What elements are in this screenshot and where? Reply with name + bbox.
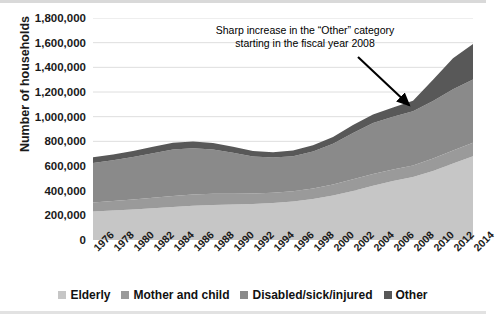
- x-tick-label: 1996: [291, 228, 316, 253]
- legend-label: Mother and child: [133, 288, 229, 302]
- x-tick-label: 2006: [391, 228, 416, 253]
- x-tick-label: 1994: [271, 228, 296, 253]
- legend-label: Elderly: [70, 288, 110, 302]
- legend-item[interactable]: Elderly: [58, 288, 110, 302]
- x-tick-label: 2014: [471, 228, 496, 253]
- x-tick-label: 1984: [171, 228, 196, 253]
- legend-swatch-icon: [240, 291, 248, 299]
- x-tick-label: 1990: [231, 228, 256, 253]
- annotation-line-1: Sharp increase in the “Other” category: [196, 24, 414, 37]
- x-tick-label: 1982: [151, 228, 176, 253]
- x-tick-label: 2010: [431, 228, 456, 253]
- x-tick-label: 1976: [91, 228, 116, 253]
- x-tick-label: 1978: [111, 228, 136, 253]
- x-tick-label: 2008: [411, 228, 436, 253]
- legend-label: Other: [396, 288, 428, 302]
- x-tick-label: 1980: [131, 228, 156, 253]
- legend-item[interactable]: Mother and child: [121, 288, 229, 302]
- chart-legend: ElderlyMother and childDisabled/sick/inj…: [0, 288, 486, 302]
- x-tick-label: 1992: [251, 228, 276, 253]
- legend-item[interactable]: Other: [384, 288, 428, 302]
- annotation-callout: Sharp increase in the “Other” category s…: [196, 24, 414, 50]
- legend-item[interactable]: Disabled/sick/injured: [240, 288, 372, 302]
- annotation-line-2: starting in the fiscal year 2008: [196, 37, 414, 50]
- x-tick-label: 2004: [371, 228, 396, 253]
- x-tick-label: 2012: [451, 228, 476, 253]
- legend-label: Disabled/sick/injured: [252, 288, 372, 302]
- legend-swatch-icon: [384, 291, 392, 299]
- legend-swatch-icon: [121, 291, 129, 299]
- x-tick-label: 1998: [311, 228, 336, 253]
- x-tick-label: 1988: [211, 228, 236, 253]
- x-tick-label: 2000: [331, 228, 356, 253]
- x-tick-label: 1986: [191, 228, 216, 253]
- legend-swatch-icon: [58, 291, 66, 299]
- x-tick-label: 2002: [351, 228, 376, 253]
